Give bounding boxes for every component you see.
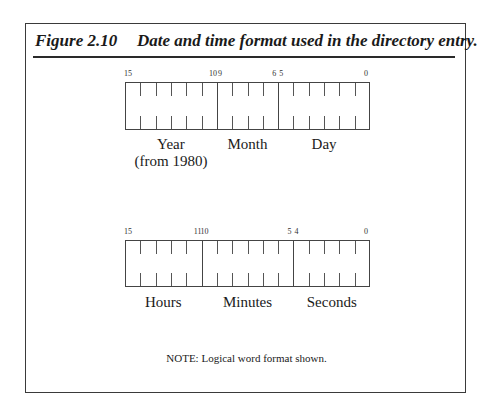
figure-caption: Date and time format used in the directo…	[137, 31, 478, 50]
bit-tick	[324, 116, 325, 129]
bit-tick	[186, 83, 187, 96]
bit-tick	[355, 273, 356, 286]
bit-tick	[263, 116, 264, 129]
field-label-minutes: Minutes	[223, 294, 272, 311]
bit-tick	[339, 116, 340, 129]
bit-number: 15	[124, 227, 132, 236]
date-register	[125, 82, 370, 130]
bit-tick	[248, 241, 249, 254]
field-label-month: Month	[227, 136, 267, 153]
bit-number: 10	[201, 227, 209, 236]
bit-tick	[156, 241, 157, 254]
field-divider	[278, 83, 279, 129]
bit-number: 6	[272, 69, 276, 78]
bit-number: 0	[364, 69, 368, 78]
bit-number: 10	[209, 69, 217, 78]
bit-tick	[140, 116, 141, 129]
time-register	[125, 240, 370, 287]
bit-tick	[171, 83, 172, 96]
figure-frame	[25, 23, 466, 393]
bit-number: 5	[287, 227, 291, 236]
bit-tick	[355, 83, 356, 96]
bit-tick	[171, 116, 172, 129]
bit-tick	[263, 83, 264, 96]
field-label-hours: Hours	[145, 294, 182, 311]
bit-tick	[186, 116, 187, 129]
bit-number: 4	[294, 227, 298, 236]
bit-tick	[278, 241, 279, 254]
bit-tick	[202, 116, 203, 129]
bit-tick	[263, 241, 264, 254]
field-divider	[202, 241, 203, 286]
bit-tick	[156, 116, 157, 129]
bit-tick	[140, 273, 141, 286]
field-label-seconds: Seconds	[307, 294, 357, 311]
bit-tick	[217, 241, 218, 254]
bit-tick	[186, 241, 187, 254]
bit-tick	[248, 273, 249, 286]
bit-tick	[232, 241, 233, 254]
bit-tick	[339, 241, 340, 254]
bit-tick	[171, 273, 172, 286]
bit-tick	[293, 116, 294, 129]
bit-tick	[324, 273, 325, 286]
title-rule	[33, 56, 455, 58]
bit-tick	[202, 83, 203, 96]
figure-number: Figure 2.10	[35, 31, 137, 51]
figure-title: Figure 2.10Date and time format used in …	[35, 31, 478, 51]
bit-number: 15	[124, 69, 132, 78]
bit-tick	[309, 273, 310, 286]
bit-tick	[232, 83, 233, 96]
bit-tick	[248, 116, 249, 129]
bit-tick	[355, 241, 356, 254]
bit-tick	[140, 241, 141, 254]
bit-tick	[309, 116, 310, 129]
bit-tick	[248, 83, 249, 96]
field-divider	[217, 83, 218, 129]
bit-tick	[339, 273, 340, 286]
bit-number: 9	[218, 69, 222, 78]
bit-tick	[232, 273, 233, 286]
bit-number: 5	[279, 69, 283, 78]
bit-tick	[324, 83, 325, 96]
bit-tick	[309, 241, 310, 254]
field-label-day: Day	[312, 136, 337, 153]
bit-tick	[309, 83, 310, 96]
field-label-year: Year(from 1980)	[134, 136, 207, 170]
bit-tick	[156, 273, 157, 286]
bit-tick	[339, 83, 340, 96]
bit-tick	[217, 273, 218, 286]
bit-tick	[355, 116, 356, 129]
bit-tick	[140, 83, 141, 96]
bit-tick	[232, 116, 233, 129]
bit-tick	[293, 83, 294, 96]
bit-tick	[263, 273, 264, 286]
field-divider	[293, 241, 294, 286]
bit-tick	[278, 273, 279, 286]
bit-tick	[324, 241, 325, 254]
bit-number: 0	[364, 227, 368, 236]
bit-tick	[186, 273, 187, 286]
figure-note: NOTE: Logical word format shown.	[0, 352, 493, 364]
bit-tick	[156, 83, 157, 96]
bit-tick	[171, 241, 172, 254]
